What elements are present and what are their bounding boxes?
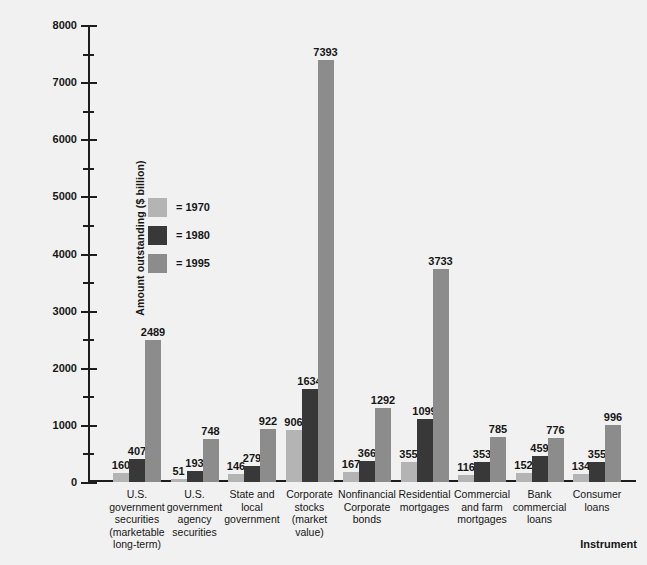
tick-mark (83, 339, 94, 341)
legend-label: = 1970 (176, 201, 210, 213)
y-tick-label: 3000 (53, 305, 77, 317)
tick-mark (81, 82, 97, 84)
legend-item[interactable]: = 1970 (148, 196, 210, 218)
bar-value-label: 776 (546, 424, 564, 436)
bar-value-label: 51 (172, 465, 184, 477)
bar[interactable]: 776 (548, 438, 564, 482)
tick-mark (83, 54, 94, 56)
bar-value-label: 906 (284, 416, 302, 428)
bar-value-label: 366 (358, 447, 376, 459)
bar[interactable]: 167 (343, 472, 359, 482)
bar-value-label: 167 (342, 458, 360, 470)
bar[interactable]: 366 (359, 461, 375, 482)
bar-value-label: 785 (489, 423, 507, 435)
bar-value-label: 160 (112, 459, 130, 471)
bar[interactable]: 922 (260, 429, 276, 482)
tick-mark (81, 425, 97, 427)
chart-legend: = 1970= 1980= 1995 (148, 196, 210, 280)
bar-value-label: 279 (243, 452, 261, 464)
bar-value-label: 996 (604, 411, 622, 423)
tick-mark (81, 482, 97, 484)
bar-group: 146279922 (228, 25, 276, 482)
bar[interactable]: 785 (490, 437, 506, 482)
legend-label: = 1980 (176, 229, 210, 241)
bar-value-label: 134 (572, 460, 590, 472)
bar-group: 1673661292 (343, 25, 391, 482)
bar[interactable]: 116 (458, 475, 474, 482)
tick-mark (83, 225, 94, 227)
bar-value-label: 355 (399, 448, 417, 460)
tick-mark (83, 453, 94, 455)
bar-value-label: 7393 (313, 46, 337, 58)
bar[interactable]: 355 (589, 462, 605, 482)
tick-mark (81, 254, 97, 256)
x-axis-title: Instrument (580, 538, 637, 550)
tick-mark (83, 396, 94, 398)
bar[interactable]: 51 (171, 479, 187, 482)
legend-swatch (148, 226, 167, 245)
tick-mark (81, 196, 97, 198)
bar-group: 152459776 (516, 25, 564, 482)
bar-chart-figure: Amount outstanding ($ billion) 010002000… (0, 0, 647, 565)
y-tick-label: 0 (71, 476, 77, 488)
bar[interactable]: 160 (113, 473, 129, 482)
legend-item[interactable]: = 1980 (148, 224, 210, 246)
legend-swatch (148, 254, 167, 273)
bar-group: 134355996 (573, 25, 621, 482)
y-tick-label: 1000 (53, 419, 77, 431)
bar-value-label: 407 (128, 445, 146, 457)
bar-value-label: 353 (473, 448, 491, 460)
bar-value-label: 2489 (141, 326, 165, 338)
legend-item[interactable]: = 1995 (148, 252, 210, 274)
bar[interactable]: 355 (401, 462, 417, 482)
bar-value-label: 116 (457, 461, 475, 473)
bar[interactable]: 2489 (145, 340, 161, 482)
bar-value-label: 152 (514, 459, 532, 471)
tick-mark (81, 139, 97, 141)
y-tick-label: 2000 (53, 362, 77, 374)
bar[interactable]: 1634 (302, 389, 318, 482)
bar[interactable]: 146 (228, 474, 244, 482)
bar-group: 90616347393 (286, 25, 334, 482)
bar[interactable]: 1292 (375, 408, 391, 482)
y-tick-label: 7000 (53, 76, 77, 88)
bar-value-label: 459 (530, 442, 548, 454)
bar[interactable]: 152 (516, 473, 532, 482)
bar-group: 35510993733 (401, 25, 449, 482)
tick-mark (83, 282, 94, 284)
bar[interactable]: 748 (203, 439, 219, 482)
bar-group: 116353785 (458, 25, 506, 482)
tick-mark (83, 168, 94, 170)
bar-value-label: 922 (259, 415, 277, 427)
legend-swatch (148, 198, 167, 217)
bar[interactable]: 459 (532, 456, 548, 482)
bar[interactable]: 193 (187, 471, 203, 482)
y-tick-label: 5000 (53, 190, 77, 202)
bar[interactable]: 279 (244, 466, 260, 482)
bar[interactable]: 7393 (318, 60, 334, 482)
bar-value-label: 355 (588, 448, 606, 460)
x-category-label: Consumer loans (557, 488, 637, 513)
bar[interactable]: 353 (474, 462, 490, 482)
tick-mark (83, 111, 94, 113)
bar[interactable]: 996 (605, 425, 621, 482)
legend-label: = 1995 (176, 257, 210, 269)
bar[interactable]: 3733 (433, 269, 449, 482)
bar-value-label: 1292 (371, 394, 395, 406)
bar[interactable]: 1099 (417, 419, 433, 482)
bar[interactable]: 407 (129, 459, 145, 482)
bar-value-label: 193 (185, 457, 203, 469)
tick-mark (81, 368, 97, 370)
bar-value-label: 3733 (428, 255, 452, 267)
tick-mark (81, 311, 97, 313)
bar-value-label: 748 (201, 425, 219, 437)
y-tick-label: 8000 (53, 19, 77, 31)
y-tick-label: 4000 (53, 248, 77, 260)
bar[interactable]: 906 (286, 430, 302, 482)
bar[interactable]: 134 (573, 474, 589, 482)
y-tick-label: 6000 (53, 133, 77, 145)
tick-mark (81, 25, 97, 27)
